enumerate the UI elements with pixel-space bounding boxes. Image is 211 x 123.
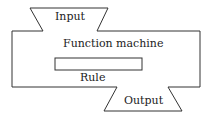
output-label: Output (124, 94, 164, 107)
rule-label: Rule (80, 71, 105, 84)
machine-title: Function machine (63, 37, 163, 50)
function-machine-diagram: Input Function machine Rule Output (0, 0, 211, 123)
rule-box (55, 58, 142, 70)
input-label: Input (55, 10, 86, 23)
machine-outline (12, 8, 200, 111)
